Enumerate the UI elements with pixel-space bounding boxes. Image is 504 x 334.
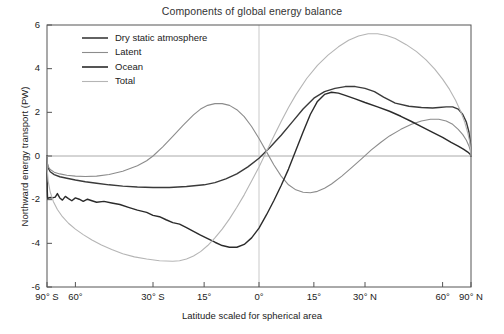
y-tick-label: 4 [35,62,40,73]
y-tick-label: 6 [35,19,40,30]
plot-canvas: 6420-2-4-6 90° S60°30° S15°0°15°30° N60°… [0,0,504,334]
x-tick-label: 60° [68,291,83,302]
x-tick-label: 30° S [141,291,164,302]
y-axis-ticks: 6420-2-4-6 [32,19,52,292]
chart-legend: Dry static atmosphereLatentOceanTotal [82,32,207,87]
y-tick-label: 2 [35,106,40,117]
x-tick-label: 90° N [459,291,483,302]
legend-label: Ocean [115,61,143,72]
legend-label: Total [115,75,135,86]
x-tick-label: 0° [254,291,263,302]
legend-label: Dry static atmosphere [115,32,207,43]
grid-layer [47,25,471,287]
x-tick-label: 60° [435,291,450,302]
y-tick-label: -6 [32,281,40,292]
x-axis-ticks: 90° S60°30° S15°0°15°30° N60°90° N [35,282,483,302]
y-tick-label: 0 [35,150,40,161]
x-tick-label: 30° N [353,291,377,302]
x-tick-label: 15° [197,291,212,302]
y-tick-label: -2 [32,193,40,204]
chart-figure: Components of global energy balance Nort… [0,0,504,334]
x-tick-label: 15° [307,291,322,302]
y-tick-label: -4 [32,237,40,248]
x-tick-label: 90° S [35,291,58,302]
legend-label: Latent [115,46,142,57]
